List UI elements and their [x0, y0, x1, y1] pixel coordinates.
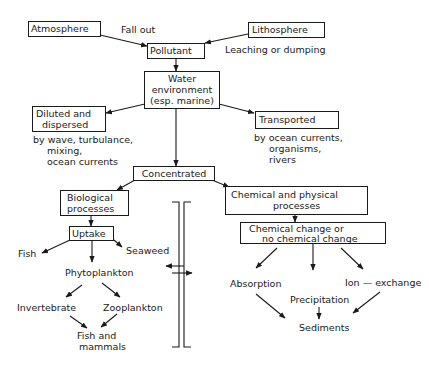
label-fish-mammals-1: Fish and	[77, 330, 116, 341]
label-absorption: Absorption	[230, 278, 281, 289]
label-leaching: Leaching or dumping	[225, 44, 326, 55]
node-water-environment: Water environment (esp. marine)	[145, 72, 220, 109]
node-lithosphere: Lithosphere	[249, 23, 325, 38]
node-transported-label: Transported	[258, 114, 315, 125]
left-bracket	[172, 202, 179, 347]
label-diluted-by-1: by wave, turbulance,	[33, 134, 133, 145]
node-uptake: Uptake	[70, 227, 114, 241]
node-biological-line-1: Biological	[67, 192, 113, 203]
label-ion-exchange: Ion — exchange	[345, 277, 421, 288]
node-biological-line-2: processes	[67, 203, 114, 214]
node-chemical-line-2: processes	[273, 200, 320, 211]
label-transported-by-3: rivers	[269, 154, 296, 165]
node-atmosphere-label: Atmosphere	[31, 23, 89, 34]
node-chemical-change: Chemical change or no chemical change	[241, 223, 386, 245]
arrow-ion-exchange-to-sediments	[353, 292, 380, 313]
arrow-change-to-absorption	[256, 248, 277, 268]
label-fish: Fish	[18, 248, 36, 259]
node-concentrated: Concentrated	[134, 167, 215, 181]
label-diluted-by-2: mixing,	[47, 145, 82, 156]
node-lithosphere-label: Lithosphere	[252, 24, 308, 35]
node-pollutant: Pollutant	[148, 44, 205, 59]
label-invertebrate: Invertebrate	[17, 302, 76, 313]
arrow-invertebrate-to-fish-mammals	[70, 316, 87, 328]
arrow-water-to-transported	[219, 104, 254, 113]
arrow-lithosphere-to-pollutant	[205, 34, 248, 43]
node-water-line-2: environment	[152, 84, 213, 95]
arrow-uptake-to-seaweed	[114, 240, 122, 247]
node-chemical-line-1: Chemical and physical	[231, 189, 338, 200]
arrow-uptake-to-fish	[42, 240, 70, 253]
arrow-zooplankton-to-fish-mammals	[101, 314, 117, 327]
label-zooplankton: Zooplankton	[103, 302, 163, 313]
arrow-change-to-ion-exchange	[341, 248, 363, 269]
node-water-line-1: Water	[168, 73, 196, 84]
arrow-concentrated-to-biological	[117, 180, 135, 190]
node-transported: Transported	[256, 112, 339, 129]
label-sediments: Sediments	[299, 322, 349, 333]
label-precipitation: Precipitation	[290, 294, 349, 305]
arrow-absorption-to-sediments	[256, 294, 285, 318]
label-transported-by-2: organisms,	[269, 143, 321, 154]
node-chemical-physical: Chemical and physical processes	[226, 187, 368, 215]
label-diluted-by-3: ocean currents	[47, 156, 118, 167]
node-diluted-line-1: Diluted and	[36, 108, 91, 119]
exchange-bracket	[166, 202, 192, 347]
node-biological: Biological processes	[61, 191, 129, 216]
arrow-concentrated-to-chemical	[212, 180, 229, 187]
node-concentrated-label: Concentrated	[142, 168, 207, 179]
arrow-phytoplankton-to-invertebrate	[66, 285, 82, 297]
node-diluted: Diluted and dispersed	[33, 107, 106, 132]
label-seaweed: Seaweed	[126, 245, 169, 256]
arrow-phytoplankton-to-zooplankton	[102, 283, 120, 297]
arrow-water-to-diluted	[106, 104, 145, 113]
node-uptake-label: Uptake	[72, 228, 106, 239]
node-water-line-3: (esp. marine)	[150, 95, 214, 106]
pollutant-flow-diagram: Atmosphere Lithosphere Pollutant Water e…	[0, 0, 429, 374]
arrow-atmosphere-to-pollutant	[100, 35, 147, 46]
node-change-line-2: no chemical change	[262, 233, 358, 244]
node-diluted-line-2: dispersed	[42, 119, 88, 130]
label-fall-out: Fall out	[121, 24, 156, 35]
right-bracket	[184, 202, 191, 347]
node-atmosphere: Atmosphere	[29, 22, 101, 37]
label-transported-by-1: by ocean currents,	[254, 132, 343, 143]
label-fish-mammals-2: mammals	[79, 341, 126, 352]
node-pollutant-label: Pollutant	[150, 45, 192, 56]
label-phytoplankton: Phytoplankton	[65, 267, 133, 278]
